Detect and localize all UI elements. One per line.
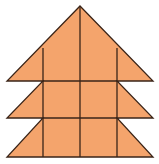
tree-figure: [0, 0, 159, 164]
